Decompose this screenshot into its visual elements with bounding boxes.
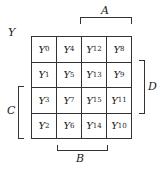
map-cell: Y1 bbox=[31, 62, 57, 89]
map-cell: Y13 bbox=[81, 62, 107, 89]
map-cell: Y14 bbox=[81, 113, 107, 140]
bracket-a bbox=[80, 17, 132, 24]
output-label: Y bbox=[8, 26, 15, 39]
label-c: C bbox=[7, 104, 15, 117]
map-cell: Y3 bbox=[31, 87, 57, 114]
map-cell: Y7 bbox=[56, 87, 82, 114]
map-cell: Y12 bbox=[81, 36, 107, 63]
bracket-c bbox=[18, 86, 24, 139]
label-d: D bbox=[148, 80, 157, 93]
map-cell: Y10 bbox=[106, 113, 132, 140]
map-cell: Y6 bbox=[56, 113, 82, 140]
bracket-b bbox=[57, 145, 108, 151]
map-grid: Y0Y4Y12Y8Y1Y5Y13Y9Y3Y7Y15Y11Y2Y6Y14Y10 bbox=[31, 36, 131, 138]
map-cell: Y15 bbox=[81, 87, 107, 114]
map-cell: Y11 bbox=[106, 87, 132, 114]
map-cell: Y4 bbox=[56, 36, 82, 63]
map-cell: Y8 bbox=[106, 36, 132, 63]
map-cell: Y0 bbox=[31, 36, 57, 63]
label-b: B bbox=[76, 152, 84, 165]
map-cell: Y5 bbox=[56, 62, 82, 89]
label-a: A bbox=[101, 4, 109, 17]
bracket-d bbox=[139, 60, 145, 114]
map-cell: Y2 bbox=[31, 113, 57, 140]
map-cell: Y9 bbox=[106, 62, 132, 89]
